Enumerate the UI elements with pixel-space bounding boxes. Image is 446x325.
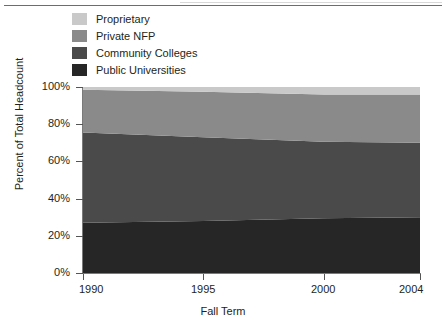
y-tick-mark: [76, 161, 83, 162]
area-series: [83, 217, 420, 273]
y-tick-mark: [76, 273, 83, 274]
x-tick-mark: [83, 274, 84, 280]
y-tick-label: 60%: [24, 154, 70, 166]
y-tick-label: 0%: [24, 266, 70, 278]
x-tick-label: 1995: [191, 283, 215, 295]
header-rule: [4, 5, 442, 6]
x-tick-label: 2000: [311, 283, 335, 295]
x-tick-label: 2004: [399, 283, 423, 295]
legend-swatch-icon: [72, 47, 87, 59]
y-tick-label: 40%: [24, 192, 70, 204]
x-axis-title: Fall Term: [0, 305, 446, 317]
x-tick-mark: [203, 274, 204, 280]
legend-swatch-icon: [72, 30, 87, 42]
legend-label: Public Universities: [96, 64, 186, 76]
legend-item: Proprietary: [72, 11, 197, 26]
x-axis-line: [83, 273, 421, 274]
stacked-area-plot: [83, 87, 420, 273]
x-tick-mark: [420, 274, 421, 280]
x-tick-label: 1990: [79, 283, 103, 295]
legend-swatch-icon: [72, 64, 87, 76]
y-tick-mark: [76, 199, 83, 200]
legend-label: Community Colleges: [96, 47, 197, 59]
chart-legend: ProprietaryPrivate NFPCommunity Colleges…: [72, 11, 197, 79]
legend-label: Proprietary: [96, 13, 150, 25]
area-series: [83, 133, 420, 223]
legend-item: Community Colleges: [72, 45, 197, 60]
y-tick-mark: [76, 124, 83, 125]
legend-swatch-icon: [72, 13, 87, 25]
y-tick-mark: [76, 87, 83, 88]
header-rule-faint: [180, 2, 442, 3]
y-tick-label: 100%: [24, 80, 70, 92]
legend-label: Private NFP: [96, 30, 155, 42]
y-tick-label: 80%: [24, 117, 70, 129]
y-tick-label: 20%: [24, 229, 70, 241]
legend-item: Public Universities: [72, 62, 197, 77]
legend-item: Private NFP: [72, 28, 197, 43]
x-tick-mark: [324, 274, 325, 280]
y-tick-mark: [76, 236, 83, 237]
